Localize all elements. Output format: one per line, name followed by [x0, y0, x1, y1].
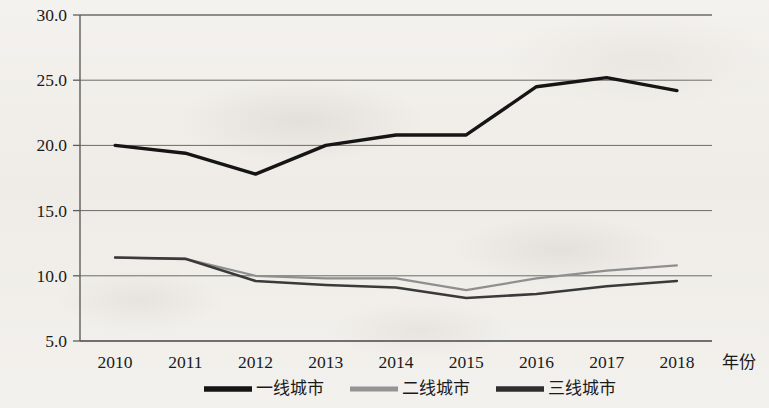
legend-label: 一线城市 — [256, 379, 324, 398]
x-tick-label: 2012 — [238, 352, 273, 372]
legend-label: 二线城市 — [402, 379, 470, 398]
x-axis-title: 年份 — [722, 353, 756, 372]
x-tick-label: 2011 — [168, 352, 202, 372]
x-tick-labels: 201020112012201320142015201620172018 — [98, 352, 695, 372]
x-tick-label: 2018 — [659, 352, 694, 372]
line-chart: 30.025.020.015.010.05.0 2010201120122013… — [0, 0, 769, 408]
chart-canvas: 30.025.020.015.010.05.0 2010201120122013… — [0, 0, 769, 408]
x-tick-label: 2010 — [98, 352, 133, 372]
y-tick-marks — [73, 15, 80, 341]
y-tick-label: 15.0 — [36, 201, 67, 221]
legend-label: 三线城市 — [548, 379, 616, 398]
axis-frame — [80, 15, 712, 341]
x-tick-label: 2014 — [379, 352, 414, 372]
x-tick-label: 2013 — [308, 352, 343, 372]
x-tick-label: 2017 — [589, 352, 624, 372]
chart-legend: 一线城市二线城市三线城市 — [204, 379, 616, 398]
data-series-layer — [115, 78, 677, 298]
gridlines — [80, 15, 712, 341]
y-tick-label: 20.0 — [36, 135, 67, 155]
y-tick-label: 5.0 — [45, 331, 67, 351]
x-tick-label: 2015 — [449, 352, 484, 372]
y-tick-label: 30.0 — [36, 5, 67, 25]
series-line — [115, 78, 677, 175]
x-tick-label: 2016 — [519, 352, 554, 372]
y-tick-label: 10.0 — [36, 266, 67, 286]
y-tick-label: 25.0 — [36, 70, 67, 90]
y-tick-labels: 30.025.020.015.010.05.0 — [36, 5, 67, 351]
